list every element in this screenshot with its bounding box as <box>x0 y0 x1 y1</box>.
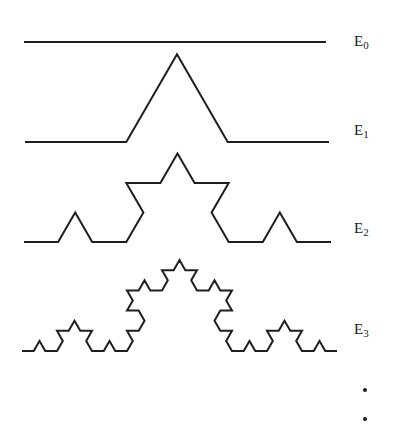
koch-curve-e1 <box>25 54 329 142</box>
continuation-dot-2 <box>363 417 367 421</box>
stage-label-e3: E3 <box>354 322 369 339</box>
stage-label-e1: E1 <box>354 123 369 140</box>
koch-curve-e2 <box>24 153 331 242</box>
koch-curve-e3 <box>22 260 337 351</box>
continuation-dot-1 <box>363 388 367 392</box>
koch-curve-figure <box>0 0 396 428</box>
stage-label-e0: E0 <box>354 34 369 51</box>
stage-label-e2: E2 <box>354 221 369 238</box>
